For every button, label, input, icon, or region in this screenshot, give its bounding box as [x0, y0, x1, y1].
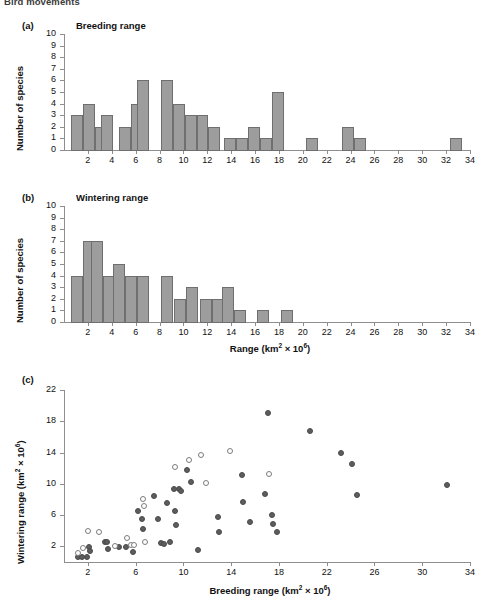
panel-a: (a) Breeding range Number of species 012…: [0, 18, 486, 178]
panel-c-x-tick-label: 30: [412, 568, 432, 577]
panel-b-x-tick-label: 4: [102, 328, 122, 337]
panel-a-y-tick-label: 9: [30, 41, 56, 50]
panel-a-x-tick-label: 8: [150, 156, 170, 165]
panel-a-y-tick: [60, 127, 64, 128]
panel-c-y-tick-label: 6: [30, 510, 56, 519]
panel-b-y-tick: [60, 322, 64, 323]
panel-b-x-tick-label: 8: [150, 328, 170, 337]
panel-c-x-tick-label: 2: [78, 568, 98, 577]
panel-b-y-tick: [60, 310, 64, 311]
panel-a-y-axis: [64, 34, 65, 150]
panel-c-point-filled: [178, 488, 184, 494]
panel-a-bar: [197, 115, 209, 151]
panel-b-ylabel: Number of species: [14, 238, 25, 323]
panel-a-bar: [173, 104, 185, 151]
panel-a-x-tick: [470, 150, 471, 154]
panel-c-y-tick-label: 2: [30, 541, 56, 550]
panel-b-x-tick-label: 32: [436, 328, 456, 337]
panel-c-point-open: [186, 457, 192, 463]
panel-a-y-tick: [60, 138, 64, 139]
panel-b-bar: [71, 276, 83, 323]
panel-c-x-tick-label: 26: [364, 568, 384, 577]
panel-c-x-tick-label: 22: [317, 568, 337, 577]
panel-a-y-tick-label: 7: [30, 64, 56, 73]
panel-c-xlabel: Breeding range (km2 × 106): [140, 584, 400, 596]
panel-b-y-tick: [60, 229, 64, 230]
panel-c-point-filled: [84, 554, 90, 560]
panel-a-x-tick-label: 20: [293, 156, 313, 165]
panel-b-x-tick-label: 2: [78, 328, 98, 337]
panel-a-y-tick: [60, 34, 64, 35]
panel-c-point-filled: [307, 428, 313, 434]
panel-c-x-tick: [327, 562, 328, 566]
panel-a-y-tick: [60, 150, 64, 151]
panel-a-x-tick-label: 14: [221, 156, 241, 165]
panel-c-point-filled: [188, 479, 194, 485]
panel-c-x-tick: [422, 562, 423, 566]
running-header: Bird movements: [4, 0, 80, 6]
panel-b-bar: [257, 310, 269, 323]
panel-b-bar: [125, 276, 137, 323]
panel-c-point-open: [112, 543, 118, 549]
panel-b-y-tick-label: 1: [30, 305, 56, 314]
panel-a-bar: [185, 115, 197, 151]
panel-a-y-tick-label: 4: [30, 99, 56, 108]
panel-c-point-filled: [270, 521, 276, 527]
panel-a-y-tick: [60, 80, 64, 81]
panel-c-point-open: [124, 535, 130, 541]
panel-a-bar: [101, 115, 113, 151]
panel-a-x-tick-label: 30: [412, 156, 432, 165]
panel-b-x-tick: [398, 322, 399, 326]
panel-b-y-tick: [60, 299, 64, 300]
panel-b-y-tick-label: 5: [30, 259, 56, 268]
panel-b-y-axis: [64, 206, 65, 322]
panel-c-point-open: [80, 545, 86, 551]
panel-a-y-tick: [60, 57, 64, 58]
panel-c-point-open: [96, 529, 102, 535]
panel-c-x-tick-label: 6: [126, 568, 146, 577]
panel-a-y-tick: [60, 69, 64, 70]
panel-a-bar: [306, 138, 318, 151]
panel-a-y-tick-label: 0: [30, 145, 56, 154]
panel-a-x-tick: [398, 150, 399, 154]
panel-a-y-tick: [60, 104, 64, 105]
panel-c-point-filled: [105, 546, 111, 552]
panel-c-y-tick-label: 18: [30, 416, 56, 425]
panel-b-x-tick: [422, 322, 423, 326]
panel-c: (c) Wintering range (km2 × 106) 26101418…: [0, 372, 486, 603]
panel-a-x-tick-label: 34: [460, 156, 480, 165]
panel-a-x-tick-label: 10: [173, 156, 193, 165]
panel-a-x-tick-label: 6: [126, 156, 146, 165]
panel-b-y-tick: [60, 264, 64, 265]
panel-b-x-tick-label: 30: [412, 328, 432, 337]
panel-c-y-tick: [60, 390, 64, 391]
panel-b-y-tick-label: 10: [30, 201, 56, 210]
panel-c-y-tick: [60, 453, 64, 454]
panel-a-x-tick-label: 2: [78, 156, 98, 165]
panel-b-y-tick-label: 6: [30, 247, 56, 256]
panel-a-x-tick: [303, 150, 304, 154]
panel-c-point-filled: [167, 539, 173, 545]
panel-c-point-filled: [215, 514, 221, 520]
panel-a-bar: [248, 127, 260, 151]
panel-c-x-tick: [231, 562, 232, 566]
panel-a-y-tick-label: 10: [30, 29, 56, 38]
panel-c-x-tick: [279, 562, 280, 566]
panel-b-bar: [174, 299, 186, 323]
panel-c-point-open: [227, 448, 233, 454]
panel-b-x-tick-label: 12: [197, 328, 217, 337]
panel-c-point-filled: [265, 410, 271, 416]
panel-b-y-tick-label: 0: [30, 317, 56, 326]
panel-c-point-filled: [274, 529, 280, 535]
panel-a-bar: [354, 138, 366, 151]
panel-c-point-open: [172, 464, 178, 470]
panel-c-point-open: [131, 542, 137, 548]
panel-a-x-tick: [446, 150, 447, 154]
panel-c-y-tick-label: 22: [30, 385, 56, 394]
panel-a-y-tick-label: 8: [30, 52, 56, 61]
panel-c-point-filled: [173, 522, 179, 528]
panel-b-y-tick-label: 8: [30, 224, 56, 233]
panel-b-x-tick-label: 22: [317, 328, 337, 337]
panel-c-point-filled: [240, 499, 246, 505]
panel-b-y-tick-label: 3: [30, 282, 56, 291]
